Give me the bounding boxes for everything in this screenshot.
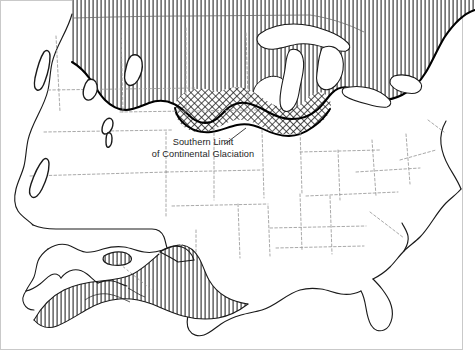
map-canvas: Southern Limit of Continental Glaciation (0, 0, 475, 350)
glaciation-map: Southern Limit of Continental Glaciation (0, 0, 475, 350)
uinta-mountains-glaciation (102, 118, 113, 134)
wasatch-range-glaciation (106, 133, 112, 148)
northern-cascades-glaciation (34, 51, 50, 91)
bitterroot-range-glaciation (83, 79, 97, 100)
sierra-nevada-glaciation (30, 159, 49, 198)
annotation-line-2: of Continental Glaciation (152, 149, 255, 159)
annotation-line-1: Southern Limit (173, 137, 234, 147)
alaska-inset (20, 235, 260, 345)
alaska-northern-glaciation-patch (103, 252, 131, 265)
